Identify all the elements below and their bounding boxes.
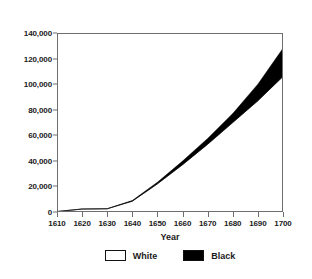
x-tick-label: 1660 bbox=[174, 219, 191, 228]
x-tick-mark bbox=[57, 212, 58, 217]
x-tick-label: 1640 bbox=[124, 219, 141, 228]
x-tick-mark bbox=[107, 212, 108, 217]
x-tick-mark bbox=[233, 212, 234, 217]
x-tick-label: 1620 bbox=[73, 219, 90, 228]
x-tick-label: 1670 bbox=[199, 219, 216, 228]
x-tick-label: 1630 bbox=[99, 219, 116, 228]
x-tick-mark bbox=[132, 212, 133, 217]
x-tick-mark bbox=[208, 212, 209, 217]
white-swatch-icon bbox=[105, 250, 126, 261]
x-tick-label: 1650 bbox=[149, 219, 166, 228]
x-tick-label: 1610 bbox=[48, 219, 65, 228]
x-tick-mark bbox=[283, 212, 284, 217]
x-tick-mark bbox=[82, 212, 83, 217]
x-axis-title: Year bbox=[57, 232, 283, 242]
x-tick-mark bbox=[258, 212, 259, 217]
black-swatch-icon bbox=[183, 250, 204, 261]
x-tick-label: 1690 bbox=[249, 219, 266, 228]
legend-item-white: White bbox=[105, 250, 158, 261]
x-tick-mark bbox=[183, 212, 184, 217]
legend-item-black: Black bbox=[183, 250, 235, 261]
legend-label-black: Black bbox=[211, 251, 235, 261]
x-tick-mark bbox=[157, 212, 158, 217]
chart-legend: White Black bbox=[57, 250, 283, 261]
x-tick-label: 1680 bbox=[224, 219, 241, 228]
legend-label-white: White bbox=[133, 251, 158, 261]
population-area-chart: 020,00040,00060,00080,000100,000120,0001… bbox=[0, 0, 312, 279]
x-tick-label: 1700 bbox=[274, 219, 291, 228]
